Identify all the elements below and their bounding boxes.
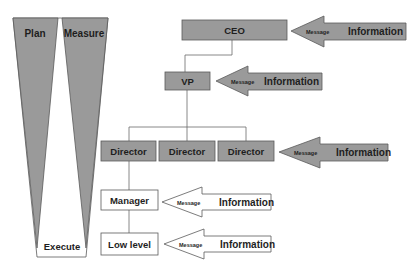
information-label: Information	[336, 147, 391, 158]
measure-label: Measure	[64, 28, 105, 39]
manager-information-arrow: Message Information	[162, 187, 274, 217]
vp-information-arrow: Message Information	[216, 66, 322, 96]
ceo-label: CEO	[224, 25, 245, 36]
information-label: Information	[348, 26, 403, 37]
information-label: Information	[219, 197, 274, 208]
director-information-arrow: Message Information	[279, 137, 391, 168]
director-label-1: Director	[110, 146, 147, 157]
ceo-vp-connector	[185, 40, 232, 72]
low-level-label: Low level	[108, 239, 151, 250]
information-label: Information	[220, 239, 275, 250]
plan-label: Plan	[24, 28, 45, 39]
director-nodes: Director Director Director	[101, 141, 274, 161]
message-label: Message	[231, 79, 254, 85]
manager-node: Manager	[101, 190, 158, 210]
low-level-information-arrow: Message Information	[164, 229, 275, 259]
manager-label: Manager	[110, 195, 149, 206]
message-label: Message	[294, 150, 317, 156]
message-label: Message	[306, 29, 329, 35]
director-label-2: Director	[169, 146, 206, 157]
director-label-3: Director	[228, 146, 265, 157]
message-label: Message	[179, 242, 202, 248]
vp-node: VP	[165, 72, 210, 90]
diagram-canvas: Plan Measure Execute CEO VP Director Dir…	[0, 0, 414, 278]
message-label: Message	[177, 200, 200, 206]
information-label: Information	[264, 76, 319, 87]
director-bracket	[129, 127, 246, 141]
vp-label: VP	[181, 76, 194, 87]
low-level-node: Low level	[101, 233, 158, 255]
execute-label: Execute	[44, 241, 80, 252]
plan-measure-execute-funnel: Plan Measure Execute	[13, 18, 108, 257]
ceo-node: CEO	[182, 20, 287, 40]
ceo-information-arrow: Message Information	[291, 16, 406, 47]
